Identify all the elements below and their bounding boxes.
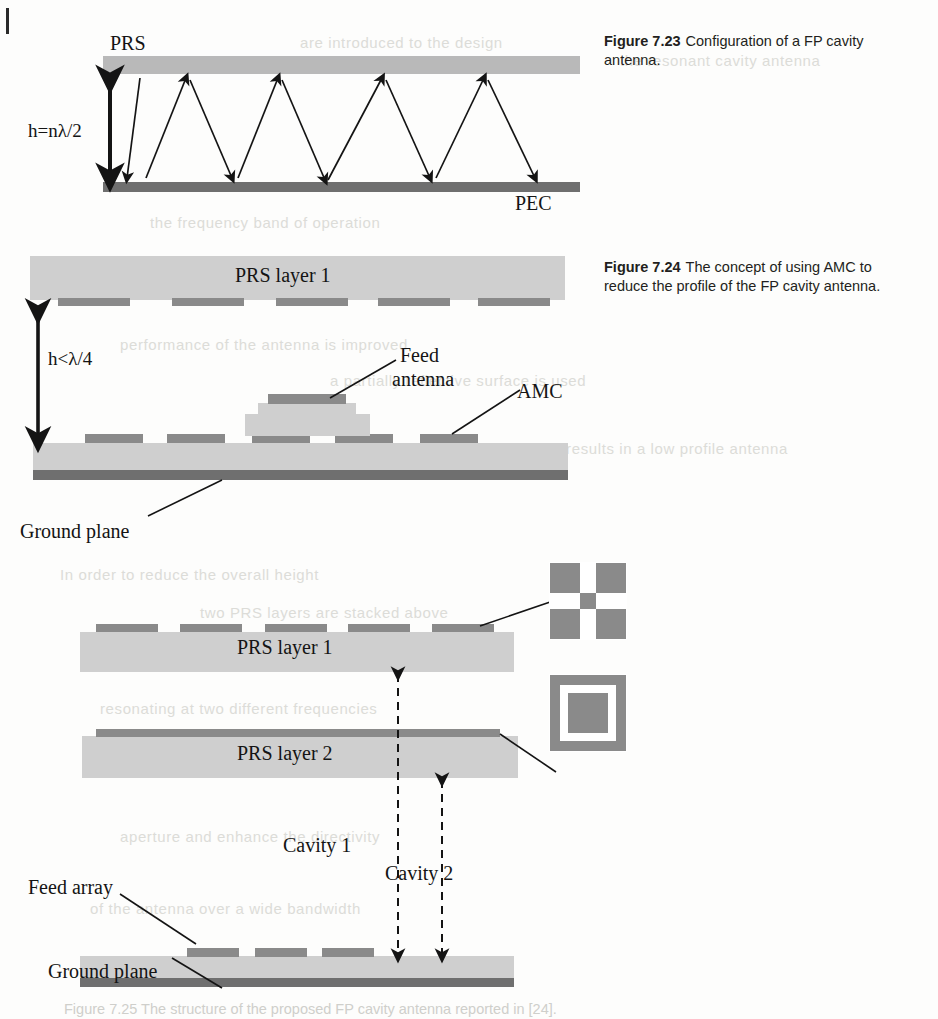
cross-patch-unit-cell-icon — [549, 562, 627, 640]
figure-7-23-diagram: PRS PEC h=nλ/2 — [0, 0, 600, 230]
figure-7-23-caption: Figure 7.23Configuration of a FP cavity … — [604, 32, 894, 70]
feed-array-leader-line — [120, 894, 196, 944]
ground-plane-leader-line — [148, 480, 222, 516]
figure-7-24-caption: Figure 7.24The concept of using AMC to r… — [604, 258, 894, 296]
feed-antenna-leader-line — [330, 360, 396, 398]
figure-7-25-caption-full: Figure 7.25 The structure of the propose… — [64, 1001, 557, 1017]
figure-7-25-caption: Figure 7.25 The structure of the propose… — [64, 1000, 824, 1019]
figure-7-23-caption-number: Figure 7.23 — [604, 33, 681, 49]
figure-7-24-caption-number: Figure 7.24 — [604, 259, 681, 275]
square-ring-inset-leader-line — [500, 734, 556, 772]
amc-leader-line — [452, 390, 520, 434]
ray-bounce-group — [127, 78, 535, 180]
cross-inset-leader-line — [480, 600, 556, 626]
ground-plane-leader-line — [172, 958, 222, 988]
figure-7-25-diagram: PRS layer 1 PRS layer 2 Cavity 1 Cavity … — [0, 556, 700, 996]
square-ring-patch-unit-cell-icon — [549, 674, 627, 752]
figure-7-24-diagram: PRS layer 1 h<λ/4 Feed antenna AMC Groun… — [0, 248, 600, 548]
